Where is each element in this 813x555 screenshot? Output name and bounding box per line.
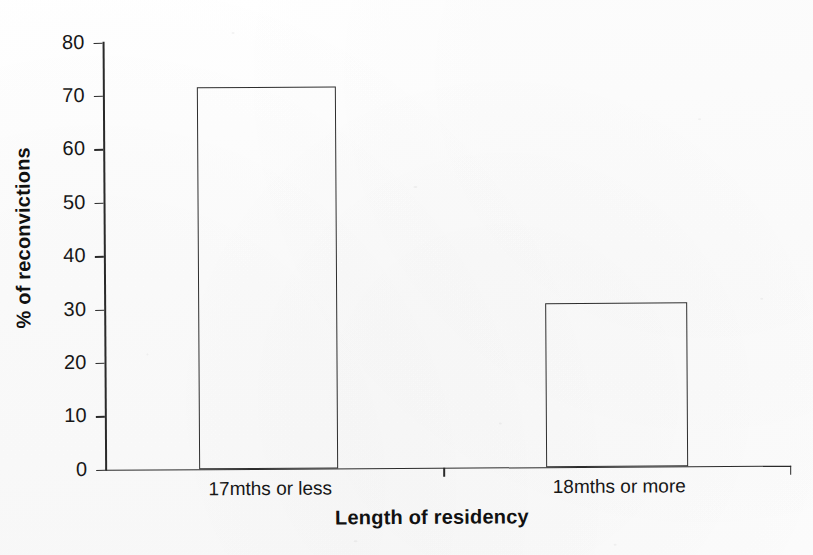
scan-speckle [698,118,701,120]
x-axis-end-tick [790,465,792,474]
scan-speckle [499,422,502,424]
scan-speckle [231,32,234,34]
scan-speckle [146,354,148,356]
y-tick-20 [96,363,105,365]
y-tick-60 [94,149,103,151]
y-tick-30 [95,309,104,311]
bar-17mths-or-less[interactable] [197,87,338,470]
scan-speckle [614,544,617,546]
y-axis-title: % of reconvictions [2,2,45,472]
y-tick-40 [95,256,104,258]
x-category-label-1: 17mths or less [187,477,353,500]
scan-speckle [760,298,763,300]
scan-speckle [413,186,417,188]
y-axis-title-text: % of reconvictions [12,147,36,329]
y-tick-10 [96,416,105,418]
scan-speckle [354,540,358,542]
y-tick-80 [94,42,103,44]
bar-18mths-or-more[interactable] [545,302,688,467]
y-tick-0 [96,470,105,472]
x-category-label-2: 18mths or more [534,475,704,498]
y-tick-70 [94,96,103,98]
x-axis-title: Length of residency [1,504,813,532]
x-axis-title-text: Length of residency [335,505,529,529]
x-category-divider-tick [443,467,445,476]
bar-chart-figure: 80 70 60 50 40 30 20 10 0 17mths or less… [0,0,813,555]
y-tick-50 [95,203,104,205]
